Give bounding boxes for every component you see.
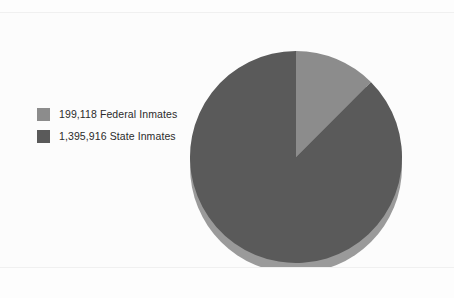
pie-chart <box>188 35 406 267</box>
plot-bottom-rule <box>0 267 454 268</box>
plot-top-rule <box>0 12 454 13</box>
legend-swatch-federal-icon <box>37 108 50 121</box>
legend-swatch-state-icon <box>37 130 50 143</box>
pie-slices <box>190 51 402 263</box>
legend-item-state[interactable]: 1,395,916 State Inmates <box>37 125 197 147</box>
pie-chart-screenshot: 199,118 Federal Inmates 1,395,916 State … <box>0 0 454 298</box>
legend-label-state: 1,395,916 State Inmates <box>59 130 176 142</box>
legend-label-federal: 199,118 Federal Inmates <box>59 108 177 120</box>
legend-item-federal[interactable]: 199,118 Federal Inmates <box>37 103 197 125</box>
pie-chart-svg <box>188 35 406 267</box>
chart-legend: 199,118 Federal Inmates 1,395,916 State … <box>37 103 197 147</box>
